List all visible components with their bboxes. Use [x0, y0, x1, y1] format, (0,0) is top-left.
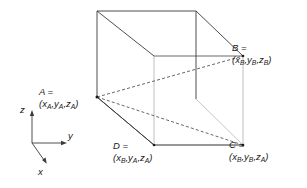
diagonal-A-to-B-dashed — [97, 56, 243, 97]
vertex-label-B: B = (xB,yB,zB) — [232, 42, 272, 66]
x-axis-line — [32, 143, 44, 160]
vertex-label-A-name: A = — [39, 86, 53, 97]
x-axis-label: x — [38, 166, 43, 177]
vertex-point-D — [153, 144, 156, 147]
edge-A-to-D — [97, 97, 154, 145]
vertex-label-D-coords: (xB,yA,zA) — [113, 152, 153, 165]
vertex-label-D-name: D = — [113, 140, 128, 151]
diagonal-A-to-C-dashed — [97, 97, 243, 145]
vertex-label-A-coords: (xA,yA,zA) — [39, 98, 79, 111]
receding-edge-top-left — [97, 11, 154, 56]
vertex-label-A: A = (xA,yA,zA) — [39, 86, 79, 110]
vertex-label-D: D = (xB,yA,zA) — [113, 140, 153, 164]
vertex-label-C: C = (xB,yB,zA) — [229, 139, 269, 163]
z-axis-arrowhead — [30, 110, 34, 116]
vertex-point-A — [96, 96, 99, 99]
y-axis-label: y — [68, 130, 73, 141]
vertex-label-B-coords: (xB,yB,zB) — [232, 54, 272, 67]
vertex-label-C-coords: (xB,yB,zA) — [229, 151, 269, 164]
cube-diagram-figure: A = (xA,yA,zA) B = (xB,yB,zB) C = (xB,yB… — [0, 0, 307, 188]
z-axis-label: z — [20, 104, 25, 115]
y-axis-arrowhead — [61, 141, 67, 145]
vertex-label-B-name: B = — [232, 42, 247, 53]
vertex-label-C-name: C = — [229, 139, 244, 150]
